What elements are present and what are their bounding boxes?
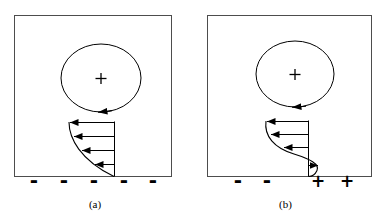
charge-sign-minus: - xyxy=(117,172,131,188)
panel-b: - - + + (b) xyxy=(190,0,381,224)
charge-sign-minus: - xyxy=(260,172,274,188)
panel-b-profile-curve xyxy=(266,121,318,177)
panel-a-caption: (a) xyxy=(0,197,190,211)
panel-a-vortex-center-marker xyxy=(96,73,107,84)
panel-a-frame xyxy=(15,16,172,177)
charge-sign-minus: - xyxy=(146,172,160,188)
charge-sign-minus: - xyxy=(27,172,41,188)
charge-sign-plus: + xyxy=(340,173,354,189)
charge-sign-minus: - xyxy=(87,172,101,188)
panel-a: - - - - - (a) xyxy=(0,0,190,224)
panel-b-vortex-rotation-arrow xyxy=(292,106,306,107)
figure-root: - - - - - (a) xyxy=(0,0,381,224)
panel-b-caption: (b) xyxy=(190,197,381,211)
charge-sign-minus: - xyxy=(231,172,245,188)
panel-b-vortex-center-marker xyxy=(290,69,301,80)
charge-sign-minus: - xyxy=(57,172,71,188)
panel-a-velocity-vectors xyxy=(70,123,114,165)
charge-sign-plus: + xyxy=(311,173,325,189)
